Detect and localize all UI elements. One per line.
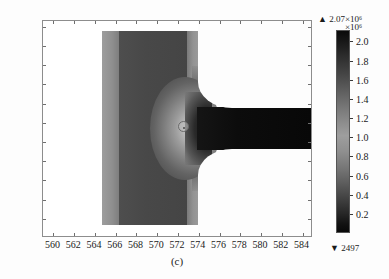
colorbar-tick <box>350 80 353 81</box>
colorbar-tick <box>350 195 353 196</box>
x-axis-tick-label: 578 <box>232 239 247 250</box>
x-axis-tick-label: 560 <box>45 239 60 250</box>
colorbar: 0.20.40.60.81.01.21.41.61.82.0 <box>336 30 350 233</box>
y-axis-tick <box>43 46 46 47</box>
x-axis-tick <box>95 233 96 236</box>
x-axis-tick-top <box>261 21 262 24</box>
y-axis-tick-right <box>308 161 311 162</box>
x-axis-tick-label: 572 <box>170 239 185 250</box>
x-axis-tick-label: 566 <box>107 239 122 250</box>
x-axis-tick-top <box>240 21 241 24</box>
upper-margin-mask <box>198 21 311 31</box>
x-axis-tick-label: 574 <box>190 239 205 250</box>
colorbar-tick-label: 0.8 <box>356 151 369 162</box>
y-axis-tick <box>43 27 46 28</box>
y-axis-tick-right <box>308 84 311 85</box>
colorbar-tick <box>350 137 353 138</box>
x-axis-tick <box>136 233 137 236</box>
field-canvas <box>43 21 311 236</box>
colorbar-tick-label: 2.0 <box>356 36 369 47</box>
x-axis-tick-top <box>136 21 137 24</box>
colorbar-tick-label: 0.6 <box>356 170 369 181</box>
x-axis-tick <box>220 233 221 236</box>
colorbar-tick <box>350 176 353 177</box>
x-axis-tick <box>282 233 283 236</box>
colorbar-tick <box>350 41 353 42</box>
colorbar-tick-label: 1.6 <box>356 74 369 85</box>
x-axis-labels: 560562564566568570572574576578580582584 <box>42 239 312 253</box>
outlet-channel-field <box>197 107 311 150</box>
x-axis-tick-label: 580 <box>253 239 268 250</box>
y-axis-tick <box>43 84 46 85</box>
x-axis-tick <box>240 233 241 236</box>
x-axis-tick-top <box>199 21 200 24</box>
x-axis-tick-top <box>178 21 179 24</box>
y-axis-tick-right <box>308 46 311 47</box>
lower-die-shoulder <box>198 149 311 236</box>
x-axis-tick-label: 582 <box>273 239 288 250</box>
x-axis-tick-label: 576 <box>211 239 226 250</box>
y-axis-tick-right <box>308 219 311 220</box>
colorbar-tick-label: 1.2 <box>356 113 369 124</box>
y-axis-tick-right <box>308 27 311 28</box>
panel-caption: (c) <box>42 255 312 267</box>
x-axis-tick-top <box>220 21 221 24</box>
x-axis-tick-top <box>116 21 117 24</box>
x-axis-tick <box>116 233 117 236</box>
y-axis-tick <box>43 65 46 66</box>
colorbar-tick <box>350 99 353 100</box>
y-axis-tick-right <box>308 180 311 181</box>
colorbar-tick-label: 0.2 <box>356 208 369 219</box>
y-axis-tick-right <box>308 123 311 124</box>
x-axis-tick-top <box>53 21 54 24</box>
colorbar-tick-label: 0.4 <box>356 189 369 200</box>
y-axis-tick <box>43 123 46 124</box>
colorbar-tick <box>350 61 353 62</box>
colorbar-tick-label: 1.8 <box>356 55 369 66</box>
y-axis-tick <box>43 142 46 143</box>
x-axis-tick-top <box>157 21 158 24</box>
x-axis-tick <box>178 233 179 236</box>
y-axis-tick-right <box>308 142 311 143</box>
x-axis-tick-label: 584 <box>294 239 309 250</box>
x-axis-tick <box>53 233 54 236</box>
y-axis-tick-right <box>308 65 311 66</box>
x-axis-tick <box>261 233 262 236</box>
y-axis-tick <box>43 161 46 162</box>
colorbar-tick <box>350 156 353 157</box>
y-axis-tick <box>43 200 46 201</box>
upper-die-shoulder <box>198 21 311 108</box>
y-axis-labels: 1856185818601862186418661868187018721874… <box>0 20 42 237</box>
x-axis-tick <box>157 233 158 236</box>
x-axis-tick <box>74 233 75 236</box>
colorbar-gradient <box>336 30 350 233</box>
x-axis-tick-label: 570 <box>149 239 164 250</box>
plot-frame <box>42 20 312 237</box>
colorbar-tick <box>350 214 353 215</box>
y-axis-tick-right <box>308 200 311 201</box>
inlet-wall-band <box>102 31 119 225</box>
colorbar-tick <box>350 118 353 119</box>
x-axis-tick-label: 564 <box>86 239 101 250</box>
colorbar-tick-label: 1.4 <box>356 93 369 104</box>
x-axis-tick-label: 562 <box>66 239 81 250</box>
y-axis-tick <box>43 219 46 220</box>
x-axis-tick-top <box>303 21 304 24</box>
lower-margin-mask <box>198 225 311 236</box>
colorbar-min-marker: ▼ 2497 <box>330 243 359 253</box>
x-axis-tick-top <box>95 21 96 24</box>
probe-center-dot-icon <box>183 127 185 129</box>
x-axis-tick-top <box>282 21 283 24</box>
x-axis-tick-top <box>74 21 75 24</box>
colorbar-tick-label: 1.0 <box>356 132 369 143</box>
y-axis-tick <box>43 104 46 105</box>
x-axis-tick <box>199 233 200 236</box>
x-axis-tick-label: 568 <box>128 239 143 250</box>
figure-panel: 1856185818601862186418661868187018721874… <box>0 0 389 279</box>
x-axis-tick <box>303 233 304 236</box>
y-axis-tick <box>43 180 46 181</box>
y-axis-tick-right <box>308 104 311 105</box>
